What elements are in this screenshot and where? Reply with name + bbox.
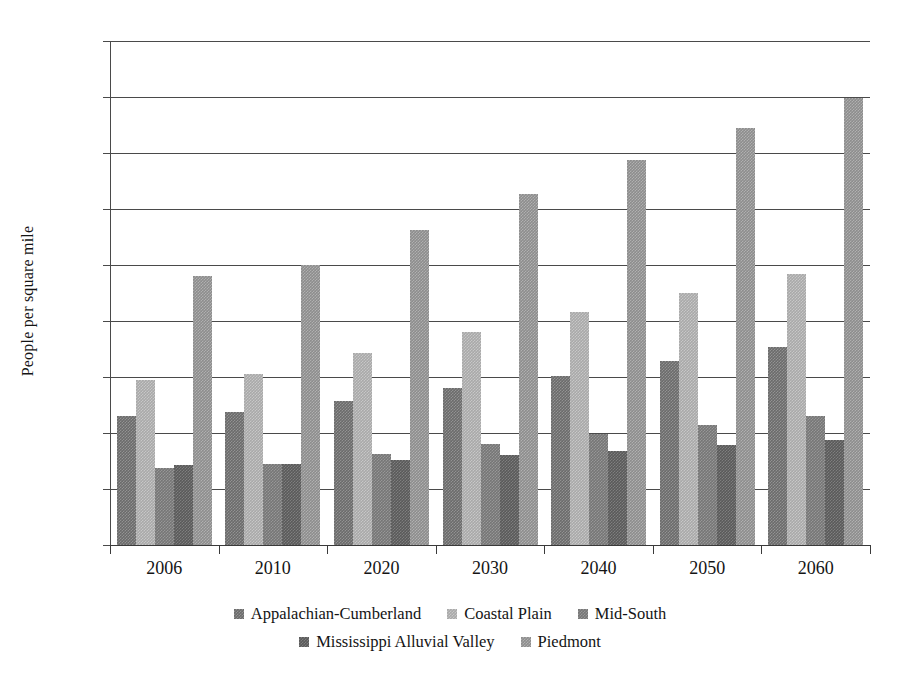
bar [698,425,717,545]
bar [136,380,155,545]
bar [806,416,825,545]
bar [391,460,410,545]
x-tick-mark [327,546,328,554]
bar-group [660,41,755,545]
bar [282,464,301,545]
y-tick-mark [103,265,110,266]
y-tick-mark [103,153,110,154]
bar-chart-figure: People per square mile 05010015020025030… [0,0,900,695]
bar [410,230,429,545]
legend-item[interactable]: Coastal Plain [447,604,552,624]
bar [736,128,755,545]
x-tick-label: 2060 [756,558,876,579]
bar-group [551,41,646,545]
legend-item[interactable]: Piedmont [521,632,601,652]
bar [462,332,481,545]
bar [519,194,538,545]
bar [301,265,320,545]
bar [244,374,263,545]
x-tick-mark [653,546,654,554]
bar-group [334,41,429,545]
x-tick-label: 2010 [213,558,333,579]
legend-item[interactable]: Appalachian-Cumberland [234,604,421,624]
bar [551,376,570,545]
bar [193,276,212,545]
legend-label: Mississippi Alluvial Valley [316,632,494,652]
x-tick-label: 2020 [321,558,441,579]
x-tick-mark [761,546,762,554]
bar [500,455,519,545]
legend-swatch-icon [447,609,457,619]
legend-row: Appalachian-CumberlandCoastal PlainMid-S… [0,604,900,624]
y-tick-mark [103,209,110,210]
bar-group [117,41,212,545]
bar [334,401,353,545]
bar [717,445,736,545]
plot-area [110,41,870,545]
legend-swatch-icon [234,609,244,619]
x-tick-label: 2006 [104,558,224,579]
bar [372,454,391,545]
bar [589,434,608,545]
y-tick-mark [103,321,110,322]
bar [844,98,863,545]
bar [443,388,462,545]
y-tick-mark [103,489,110,490]
x-tick-mark [870,546,871,554]
x-tick-mark [219,546,220,554]
x-tick-label: 2040 [539,558,659,579]
legend-label: Piedmont [538,632,601,652]
bar-group [768,41,863,545]
legend-swatch-icon [521,637,531,647]
y-tick-mark [103,97,110,98]
bar [353,353,372,545]
legend-label: Coastal Plain [464,604,552,624]
chart-legend: Appalachian-CumberlandCoastal PlainMid-S… [0,604,900,660]
bar [768,347,787,545]
bar [117,416,136,545]
bar-group [225,41,320,545]
bar [825,440,844,545]
bar [481,444,500,545]
legend-label: Appalachian-Cumberland [251,604,421,624]
y-tick-mark [103,545,110,546]
x-tick-label: 2030 [430,558,550,579]
bar [660,361,679,545]
bar [787,274,806,545]
bar [570,312,589,545]
legend-label: Mid-South [595,604,667,624]
y-axis-title: People per square mile [19,161,37,441]
legend-row: Mississippi Alluvial ValleyPiedmont [0,632,900,652]
bar [155,468,174,545]
legend-swatch-icon [299,637,309,647]
x-axis-line [110,545,871,546]
x-tick-mark [110,546,111,554]
legend-item[interactable]: Mississippi Alluvial Valley [299,632,494,652]
bar [225,412,244,545]
bar [608,451,627,545]
bar [174,465,193,545]
bar-group [443,41,538,545]
y-tick-mark [103,41,110,42]
x-tick-mark [544,546,545,554]
x-tick-mark [436,546,437,554]
y-tick-mark [103,433,110,434]
legend-swatch-icon [578,609,588,619]
bar [263,464,282,545]
x-tick-label: 2050 [647,558,767,579]
bar [627,160,646,545]
legend-item[interactable]: Mid-South [578,604,667,624]
y-tick-mark [103,377,110,378]
bar [679,293,698,545]
